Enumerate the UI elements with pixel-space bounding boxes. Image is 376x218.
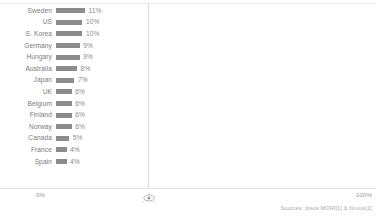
bar-value-label: 5%: [69, 134, 82, 142]
bar: [56, 8, 85, 13]
bar-row: Sweden11%: [0, 5, 376, 17]
bar-category-label: Hungary: [0, 53, 56, 61]
bar-value-label: 8%: [77, 65, 90, 73]
bar-row: Japan7%: [0, 75, 376, 87]
bar: [56, 89, 72, 94]
bar-category-label: Spain: [0, 158, 56, 166]
bar: [56, 31, 82, 36]
bar-value-label: 9%: [80, 42, 93, 50]
bar-row: US10%: [0, 17, 376, 29]
bar-track: 10%: [56, 17, 376, 29]
bar: [56, 20, 82, 25]
bar-value-label: 4%: [67, 146, 80, 154]
bar-category-label: Germany: [0, 42, 56, 50]
source-credit: Sources: Ipsos MORI[1] & Novus[1]: [280, 205, 372, 212]
bar: [56, 55, 80, 60]
bar: [56, 136, 69, 141]
bar-track: 4%: [56, 144, 376, 156]
bar-row: Germany9%: [0, 40, 376, 52]
axis-tick-max: 100%: [356, 191, 372, 199]
bar-category-label: Australia: [0, 65, 56, 73]
bar: [56, 66, 77, 71]
bar: [56, 113, 72, 118]
bar-track: 7%: [56, 75, 376, 87]
bar-category-label: France: [0, 146, 56, 154]
bar-track: 8%: [56, 63, 376, 75]
bar-track: 6%: [56, 121, 376, 133]
bar-row: Canada5%: [0, 133, 376, 145]
bar-category-label: Canada: [0, 134, 56, 142]
bar-rows: Sweden11%US10%S. Korea10%Germany9%Hungar…: [0, 5, 376, 167]
bar-track: 6%: [56, 109, 376, 121]
bar-category-label: S. Korea: [0, 30, 56, 38]
bar-category-label: Finland: [0, 111, 56, 119]
bar-track: 9%: [56, 51, 376, 63]
bar-category-label: Sweden: [0, 7, 56, 15]
bar-row: Finland6%: [0, 109, 376, 121]
bar-row: Norway6%: [0, 121, 376, 133]
bar-track: 11%: [56, 5, 376, 17]
bar-row: UK6%: [0, 86, 376, 98]
bar-track: 6%: [56, 86, 376, 98]
bar-value-label: 10%: [82, 18, 99, 26]
bar-value-label: 7%: [74, 76, 87, 84]
top-divider: [0, 3, 376, 4]
bar-row: Spain4%: [0, 156, 376, 168]
bar: [56, 159, 67, 164]
bar-value-label: 10%: [82, 30, 99, 38]
eye-marker-icon: [141, 190, 157, 202]
bar-track: 9%: [56, 40, 376, 52]
bar-row: Belgium6%: [0, 98, 376, 110]
x-axis-line: [0, 188, 376, 189]
bar-track: 6%: [56, 98, 376, 110]
bar-value-label: 6%: [72, 123, 85, 131]
bar-track: 4%: [56, 156, 376, 168]
bar-value-label: 6%: [72, 100, 85, 108]
bar-row: Australia8%: [0, 63, 376, 75]
bar: [56, 124, 72, 129]
bar-category-label: US: [0, 18, 56, 26]
bar-row: Hungary9%: [0, 51, 376, 63]
axis-tick-min: 0%: [36, 191, 45, 199]
bar-value-label: 6%: [72, 111, 85, 119]
bar: [56, 78, 74, 83]
bar: [56, 43, 80, 48]
bar-chart: Sweden11%US10%S. Korea10%Germany9%Hungar…: [0, 0, 376, 218]
bar: [56, 101, 72, 106]
bar-value-label: 11%: [85, 7, 102, 15]
bar-track: 10%: [56, 28, 376, 40]
bar-category-label: Belgium: [0, 100, 56, 108]
bar-value-label: 6%: [72, 88, 85, 96]
bar-row: France4%: [0, 144, 376, 156]
bar-category-label: UK: [0, 88, 56, 96]
bar-category-label: Japan: [0, 76, 56, 84]
bar-row: S. Korea10%: [0, 28, 376, 40]
bar-track: 5%: [56, 133, 376, 145]
bar: [56, 147, 67, 152]
bar-value-label: 9%: [80, 53, 93, 61]
bar-category-label: Norway: [0, 123, 56, 131]
bar-value-label: 4%: [67, 158, 80, 166]
